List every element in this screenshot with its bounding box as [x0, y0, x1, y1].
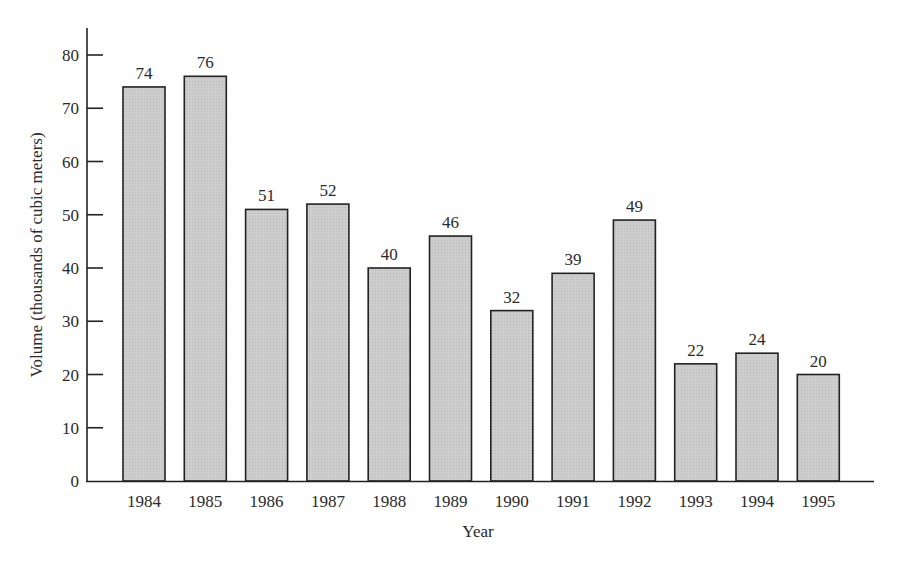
x-tick-label: 1995 — [801, 492, 835, 511]
bar-1986 — [246, 209, 288, 481]
x-axis-title: Year — [462, 522, 494, 541]
bar-chart: 01020304050607080 7419847619855119865219… — [0, 0, 899, 567]
y-tick-label: 30 — [62, 312, 79, 331]
bar-1990 — [491, 311, 533, 481]
y-tick-label: 50 — [62, 206, 79, 225]
x-tick-label: 1994 — [740, 492, 775, 511]
bar-value-label: 51 — [258, 186, 275, 205]
y-tick-label: 10 — [62, 419, 79, 438]
x-tick-label: 1990 — [495, 492, 529, 511]
bar-1993 — [675, 364, 717, 481]
bar-value-label: 49 — [626, 197, 643, 216]
x-tick-label: 1984 — [127, 492, 162, 511]
bar-value-label: 74 — [136, 64, 154, 83]
y-tick-label: 0 — [71, 472, 80, 491]
bar-value-label: 22 — [687, 341, 704, 360]
x-tick-label: 1992 — [617, 492, 651, 511]
y-axis-ticks: 01020304050607080 — [62, 46, 103, 491]
y-tick-label: 80 — [62, 46, 79, 65]
bar-1984 — [123, 87, 165, 481]
x-tick-label: 1989 — [434, 492, 468, 511]
bar-value-label: 20 — [810, 352, 827, 371]
x-tick-label: 1993 — [679, 492, 713, 511]
y-tick-label: 70 — [62, 99, 79, 118]
y-tick-label: 60 — [62, 153, 79, 172]
y-tick-label: 40 — [62, 259, 79, 278]
bar-1988 — [368, 268, 410, 481]
bar-value-label: 76 — [197, 53, 214, 72]
x-tick-label: 1985 — [188, 492, 222, 511]
bar-1995 — [797, 375, 839, 482]
bar-value-label: 52 — [319, 181, 336, 200]
y-axis-title: Volume (thousands of cubic meters) — [27, 132, 46, 377]
bar-value-label: 39 — [565, 250, 582, 269]
x-tick-label: 1987 — [311, 492, 346, 511]
x-tick-label: 1986 — [250, 492, 284, 511]
bar-1989 — [430, 236, 472, 481]
x-tick-label: 1988 — [372, 492, 406, 511]
bar-value-label: 40 — [381, 245, 398, 264]
bar-1992 — [613, 220, 655, 481]
bar-1994 — [736, 353, 778, 481]
bar-value-label: 46 — [442, 213, 459, 232]
bar-value-label: 24 — [749, 330, 767, 349]
bar-value-label: 32 — [503, 288, 520, 307]
bar-1991 — [552, 273, 594, 481]
x-tick-label: 1991 — [556, 492, 590, 511]
bars: 7419847619855119865219874019884619893219… — [123, 53, 839, 511]
y-tick-label: 20 — [62, 366, 79, 385]
bar-1987 — [307, 204, 349, 481]
bar-1985 — [184, 76, 226, 481]
